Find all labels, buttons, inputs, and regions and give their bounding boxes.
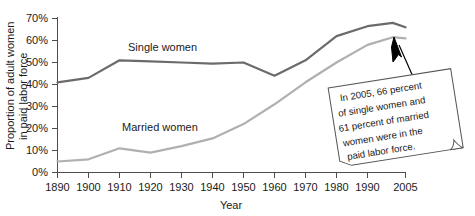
x-tick-label-1970: 1970 — [293, 181, 317, 193]
x-tick-label-1950: 1950 — [231, 181, 255, 193]
chart-canvas: Proportion of adult women in paid labor … — [0, 0, 475, 216]
y-tick-label-70: 70% — [26, 12, 48, 24]
x-tick-label-1910: 1910 — [107, 181, 131, 193]
x-axis-title: Year — [220, 199, 243, 211]
y-axis-ticks: 0% 10% 20% 30% 40% 50% 60% 70% — [26, 12, 58, 178]
y-tick-label-50: 50% — [26, 56, 48, 68]
y-axis-title-line-1: Proportion of adult women — [4, 22, 16, 150]
x-tick-label-1960: 1960 — [262, 181, 286, 193]
y-tick-label-0: 0% — [32, 166, 48, 178]
y-tick-label-40: 40% — [26, 78, 48, 90]
x-tick-label-1920: 1920 — [138, 181, 162, 193]
annotation-arrow-head-icon — [392, 37, 402, 62]
series-label-married-women: Married women — [122, 121, 198, 133]
x-tick-label-1990: 1990 — [355, 181, 379, 193]
annotation-callout: In 2005, 66 percent of single women and … — [328, 69, 463, 167]
series-label-single-women: Single women — [128, 41, 197, 53]
x-tick-label-1940: 1940 — [200, 181, 224, 193]
line-chart: Proportion of adult women in paid labor … — [0, 0, 475, 216]
x-tick-label-1890: 1890 — [45, 181, 69, 193]
x-axis-ticks: 1890 1900 1910 1920 1930 1940 1950 1960 … — [45, 173, 417, 194]
y-tick-label-60: 60% — [26, 34, 48, 46]
x-tick-label-1930: 1930 — [169, 181, 193, 193]
x-tick-label-1900: 1900 — [76, 181, 100, 193]
y-tick-label-20: 20% — [26, 122, 48, 134]
y-tick-label-10: 10% — [26, 144, 48, 156]
x-tick-label-2005: 2005 — [393, 181, 417, 193]
x-tick-label-1980: 1980 — [324, 181, 348, 193]
y-tick-label-30: 30% — [26, 100, 48, 112]
